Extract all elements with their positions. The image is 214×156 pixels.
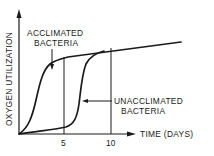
arrow-left-icon [82, 99, 88, 103]
x-tick-5: 5 [61, 138, 66, 148]
acclimated-label-line2: BACTERIA [34, 38, 78, 48]
x-axis-label: TIME (DAYS) [140, 129, 193, 139]
y-axis-arrow-icon [17, 9, 22, 18]
x-tick-10: 10 [106, 138, 116, 148]
y-axis-label: OXYGEN UTILIZATION [4, 32, 14, 126]
unacclimated-bacteria-curve [19, 51, 104, 134]
oxygen-utilization-diagram: OXYGEN UTILIZATION TIME (DAYS) 5 10 ACCL… [0, 0, 214, 156]
acclimated-bacteria-curve [19, 42, 181, 134]
x-axis-arrow-icon [127, 132, 136, 137]
unacclimated-label-line2: BACTERIA [121, 106, 165, 116]
acclimated-label-line1: ACCLIMATED [27, 28, 83, 38]
arrow-down-icon [50, 64, 54, 70]
unacclimated-label-line1: UNACCLIMATED [114, 96, 183, 106]
chart-canvas: OXYGEN UTILIZATION TIME (DAYS) 5 10 ACCL… [0, 0, 214, 156]
